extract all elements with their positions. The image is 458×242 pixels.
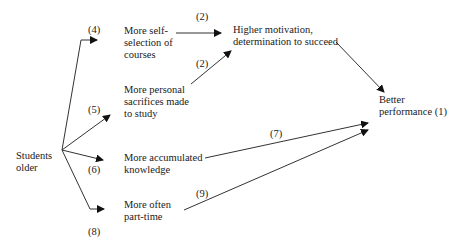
edge-part-time-to-performance — [184, 130, 368, 210]
node-performance-line1: Better — [379, 94, 447, 106]
node-part-time-line1: More often — [124, 199, 171, 211]
node-knowledge-line1: More accumulated — [124, 152, 202, 164]
node-students-older: Students older — [16, 150, 52, 174]
edge-label-6: (6) — [88, 164, 100, 176]
node-performance: Better performance (1) — [379, 94, 447, 118]
node-sacrifices-line2: sacrifices made — [124, 96, 189, 108]
node-part-time-line2: part-time — [124, 211, 171, 223]
node-knowledge: More accumulated knowledge — [124, 152, 202, 176]
edge-label-8: (8) — [88, 226, 100, 238]
edge-label-2-top: (2) — [196, 11, 208, 23]
edge-label-2-bottom: (2) — [196, 58, 208, 70]
node-self-selection-line3: courses — [124, 49, 173, 61]
node-self-selection-line1: More self- — [124, 25, 173, 37]
edge-label-9: (9) — [196, 188, 208, 200]
node-part-time: More often part-time — [124, 199, 171, 223]
node-performance-line2: performance (1) — [379, 106, 447, 118]
edge-to-self-selection — [62, 40, 97, 150]
node-motivation-line2: determination to succeed — [233, 36, 338, 48]
node-students-older-line1: Students — [16, 150, 52, 162]
edge-label-4: (4) — [88, 24, 100, 36]
edge-label-7: (7) — [270, 128, 282, 140]
node-self-selection: More self- selection of courses — [124, 25, 173, 61]
edge-motivation-to-performance — [336, 42, 384, 92]
node-motivation: Higher motivation, determination to succ… — [233, 24, 338, 48]
node-students-older-line2: older — [16, 162, 52, 174]
node-knowledge-line2: knowledge — [124, 164, 202, 176]
node-sacrifices: More personal sacrifices made to study — [124, 84, 189, 120]
node-sacrifices-line1: More personal — [124, 84, 189, 96]
node-sacrifices-line3: to study — [124, 108, 189, 120]
node-motivation-line1: Higher motivation, — [233, 24, 338, 36]
edge-to-knowledge — [62, 150, 103, 160]
node-self-selection-line2: selection of — [124, 37, 173, 49]
edge-to-sacrifices — [62, 115, 110, 150]
diagram-edges — [0, 0, 458, 242]
edge-label-5: (5) — [88, 104, 100, 116]
